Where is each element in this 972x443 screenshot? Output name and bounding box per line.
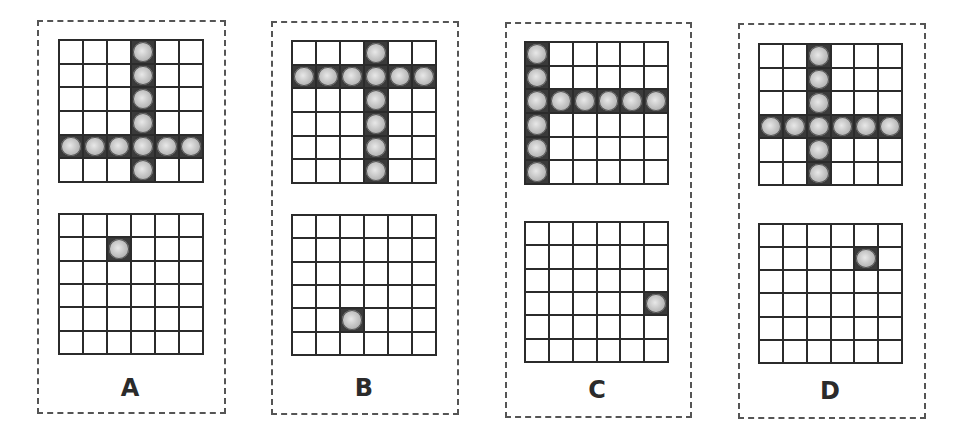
grid-cell <box>808 318 830 339</box>
grid-cell <box>413 286 435 307</box>
grid-cell <box>645 114 667 136</box>
grid-cell <box>645 43 667 65</box>
grid-cell <box>760 318 782 339</box>
grid-cell <box>108 215 130 236</box>
ball-icon <box>365 137 387 159</box>
grid-cell <box>132 215 154 236</box>
grid-cell <box>550 43 572 65</box>
ball-grid-a <box>58 213 204 355</box>
grid-cell <box>855 294 877 315</box>
grid-cell <box>621 293 643 314</box>
grid-cell <box>784 248 806 269</box>
ball-icon <box>108 238 130 259</box>
ball-icon <box>108 136 130 158</box>
grid-cell <box>598 340 620 361</box>
ball-icon <box>365 113 387 135</box>
grid-cell <box>645 223 667 244</box>
grid-cell <box>621 316 643 337</box>
grid-cell <box>550 246 572 267</box>
ball-icon <box>526 90 548 112</box>
grid-cell <box>84 41 106 63</box>
grid-cell <box>621 270 643 291</box>
grid-cell <box>832 45 854 67</box>
grid-cell <box>598 223 620 244</box>
grid-cell <box>598 316 620 337</box>
grid-cell <box>598 43 620 65</box>
ball-icon <box>84 136 106 158</box>
ball-icon <box>598 90 620 112</box>
ball-icon <box>132 88 154 110</box>
ball-icon <box>550 90 572 112</box>
grid-cell <box>879 294 901 315</box>
grid-cell <box>60 65 82 87</box>
grid-cell <box>84 88 106 110</box>
grid-cell <box>293 42 315 64</box>
ball-icon <box>341 309 363 330</box>
grid-cell <box>550 114 572 136</box>
grid-cell <box>293 113 315 135</box>
grid-cell <box>550 223 572 244</box>
ball-icon <box>132 65 154 87</box>
ball-icon <box>879 116 901 138</box>
grid-cell <box>317 263 339 284</box>
grid-cell <box>341 42 363 64</box>
grid-cell <box>413 239 435 260</box>
grid-cell <box>621 161 643 183</box>
option-label-c: C <box>567 376 627 404</box>
grid-cell <box>84 238 106 259</box>
grid-cell <box>760 341 782 362</box>
grid-cell <box>365 263 387 284</box>
grid-cell <box>832 69 854 91</box>
grid-cell <box>341 160 363 182</box>
grid-cell <box>621 223 643 244</box>
grid-cell <box>550 293 572 314</box>
grid-cell <box>784 318 806 339</box>
ball-icon <box>180 136 202 158</box>
ball-icon <box>855 248 877 269</box>
grid-cell <box>60 238 82 259</box>
grid-cell <box>60 308 82 329</box>
grid-cell <box>879 139 901 161</box>
grid-cell <box>760 69 782 91</box>
grid-cell <box>341 113 363 135</box>
grid-cell <box>84 308 106 329</box>
ball-icon <box>645 90 667 112</box>
grid-cell <box>784 341 806 362</box>
grid-cell <box>156 65 178 87</box>
grid-cell <box>760 139 782 161</box>
pattern-grid-a <box>58 39 204 183</box>
grid-cell <box>621 138 643 160</box>
grid-cell <box>317 216 339 237</box>
grid-cell <box>760 248 782 269</box>
grid-cell <box>879 69 901 91</box>
grid-cell <box>879 225 901 246</box>
grid-cell <box>156 41 178 63</box>
grid-cell <box>84 215 106 236</box>
grid-cell <box>156 262 178 283</box>
ball-icon <box>574 90 596 112</box>
grid-cell <box>760 271 782 292</box>
grid-cell <box>808 248 830 269</box>
grid-cell <box>108 332 130 353</box>
grid-cell <box>108 285 130 306</box>
grid-cell <box>84 159 106 181</box>
grid-cell <box>60 159 82 181</box>
ball-grid-c <box>524 221 669 363</box>
grid-cell <box>341 216 363 237</box>
ball-icon <box>132 41 154 63</box>
grid-cell <box>84 332 106 353</box>
ball-icon <box>526 138 548 160</box>
grid-cell <box>784 69 806 91</box>
grid-cell <box>645 340 667 361</box>
grid-cell <box>389 263 411 284</box>
grid-cell <box>621 340 643 361</box>
grid-cell <box>526 246 548 267</box>
grid-cell <box>526 223 548 244</box>
grid-cell <box>598 67 620 89</box>
grid-cell <box>108 159 130 181</box>
grid-cell <box>317 239 339 260</box>
grid-cell <box>156 238 178 259</box>
pattern-grid-b <box>291 40 437 184</box>
grid-cell <box>341 89 363 111</box>
grid-cell <box>293 160 315 182</box>
